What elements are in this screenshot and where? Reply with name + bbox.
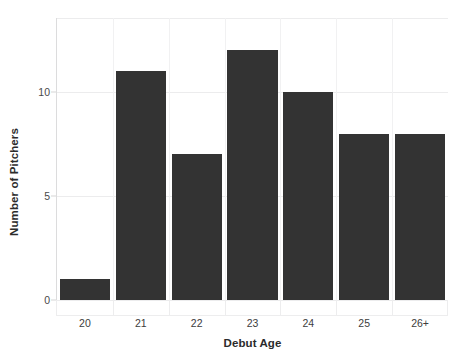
gridline-vertical	[113, 18, 114, 300]
plot-area	[57, 18, 448, 300]
bar[interactable]	[395, 134, 445, 300]
bar[interactable]	[283, 92, 333, 300]
bar[interactable]	[339, 134, 389, 300]
bar[interactable]	[116, 71, 166, 300]
plot-top-border	[57, 18, 448, 19]
gridline-vertical	[280, 18, 281, 300]
x-axis-tick-mark	[336, 300, 337, 315]
y-axis-tick-label: 10	[10, 86, 56, 98]
y-axis-tick-label: 0	[10, 294, 56, 306]
x-axis-tick-label: 20	[79, 317, 91, 329]
x-axis-tick-label: 25	[358, 317, 370, 329]
y-axis-tick-label: 5	[10, 190, 56, 202]
bar[interactable]	[60, 279, 110, 300]
bar-chart-figure: Number of Pitchers 0510 20212223242526+ …	[0, 0, 465, 364]
bar[interactable]	[227, 50, 277, 300]
x-axis-tick-label: 21	[135, 317, 147, 329]
x-axis-tick-label: 26+	[411, 317, 429, 329]
x-axis-title: Debut Age	[57, 337, 448, 349]
x-axis-tick-label: 22	[191, 317, 203, 329]
gridline-vertical	[392, 18, 393, 300]
x-axis-tick-label: 23	[247, 317, 259, 329]
y-axis-tick-layer: 0510	[0, 18, 56, 300]
gridline-vertical	[336, 18, 337, 300]
x-axis-tick-mark	[280, 300, 281, 315]
x-axis-tick-label: 24	[303, 317, 315, 329]
gridline-vertical	[225, 18, 226, 300]
x-axis-tick-mark	[392, 300, 393, 315]
x-axis-tick-mark	[225, 300, 226, 315]
x-axis-tick-mark	[169, 300, 170, 315]
x-axis-tick-mark	[113, 300, 114, 315]
gridline-vertical	[169, 18, 170, 300]
bar[interactable]	[172, 154, 222, 300]
x-axis-tick-layer: 20212223242526+	[57, 300, 448, 336]
